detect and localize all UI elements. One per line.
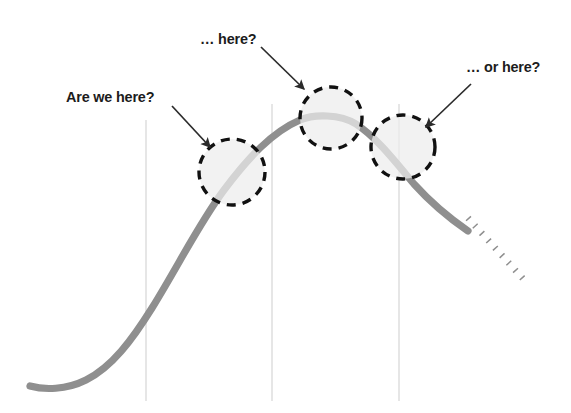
- curve-group: [30, 116, 526, 389]
- arrow-here: [261, 47, 304, 89]
- curve-dotted-projection: [468, 218, 526, 282]
- arrow-or-here: [426, 84, 471, 127]
- circle-early[interactable]: [199, 139, 265, 205]
- annotation-label-or-here: … or here?: [466, 58, 540, 76]
- arrow-are-we-here: [172, 106, 210, 147]
- circle-peak[interactable]: [300, 87, 362, 149]
- s-curve-annotation-figure: Are we here? … here? … or here?: [0, 0, 571, 413]
- circle-late[interactable]: [371, 115, 435, 179]
- annotation-label-are-we-here: Are we here?: [66, 88, 154, 106]
- annotation-label-here: … here?: [200, 30, 256, 48]
